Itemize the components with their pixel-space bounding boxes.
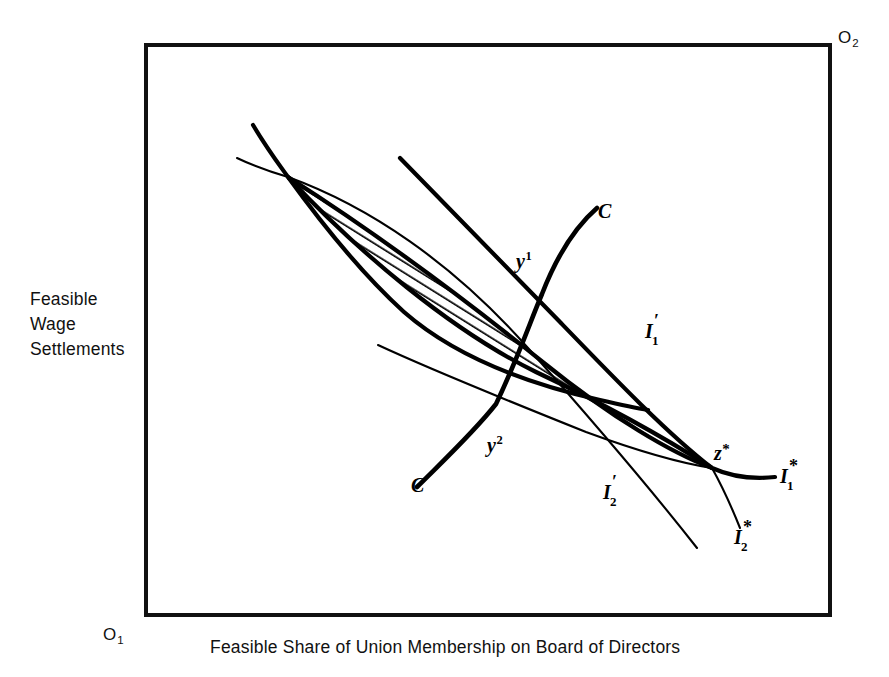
x-axis-label: Feasible Share of Union Membership on Bo… — [210, 639, 680, 657]
label-I2-star-mark: * — [743, 518, 752, 536]
label-point-z-star-base: z — [714, 442, 722, 464]
origin-label-O2: O2 — [838, 29, 858, 46]
label-indiff-I2-prime: I′2 — [603, 482, 611, 502]
label-point-y2-sup: 2 — [496, 433, 502, 447]
label-I1-star-sub: 1 — [787, 479, 794, 492]
label-I1-prime-sub: 1 — [652, 334, 659, 347]
label-contract-curve-lower: C — [411, 475, 424, 495]
y-axis-label: Feasible Wage Settlements — [30, 287, 125, 362]
origin-O1-sub: 1 — [117, 634, 123, 646]
y-axis-label-line-3: Settlements — [30, 337, 125, 362]
label-indiff-I1-prime: I′1 — [645, 321, 653, 341]
label-point-y1-base: y — [516, 250, 525, 272]
origin-O2-sub: 2 — [852, 37, 858, 49]
y-axis-label-line-2: Wage — [30, 312, 125, 337]
curve-I1-prime — [253, 125, 648, 410]
label-contract-curve-upper: C — [598, 201, 611, 221]
label-point-z-star-mark: * — [722, 441, 730, 457]
label-I1-star-mark: * — [789, 457, 798, 475]
edgeworth-box-plot — [0, 0, 889, 677]
label-point-y2-base: y — [487, 434, 496, 456]
label-point-y1: y1 — [516, 251, 531, 271]
label-point-y2: y2 — [487, 435, 502, 455]
label-I2-star-sub: 2 — [741, 540, 748, 553]
label-I1-prime-mark: ′ — [654, 312, 659, 330]
label-point-y1-sup: 1 — [525, 249, 531, 263]
figure-container: Feasible Wage Settlements Feasible Share… — [0, 0, 889, 677]
label-indiff-I1-star: I*1 — [780, 466, 788, 486]
origin-label-O1: O1 — [103, 626, 123, 643]
origin-O1-base: O — [103, 625, 116, 644]
label-I2-prime-mark: ′ — [612, 473, 617, 491]
label-point-z-star: z* — [714, 443, 729, 463]
origin-O2-base: O — [838, 28, 851, 47]
y-axis-label-line-1: Feasible — [30, 287, 125, 312]
label-I2-prime-sub: 2 — [610, 495, 617, 508]
label-indiff-I2-star: I*2 — [734, 527, 742, 547]
